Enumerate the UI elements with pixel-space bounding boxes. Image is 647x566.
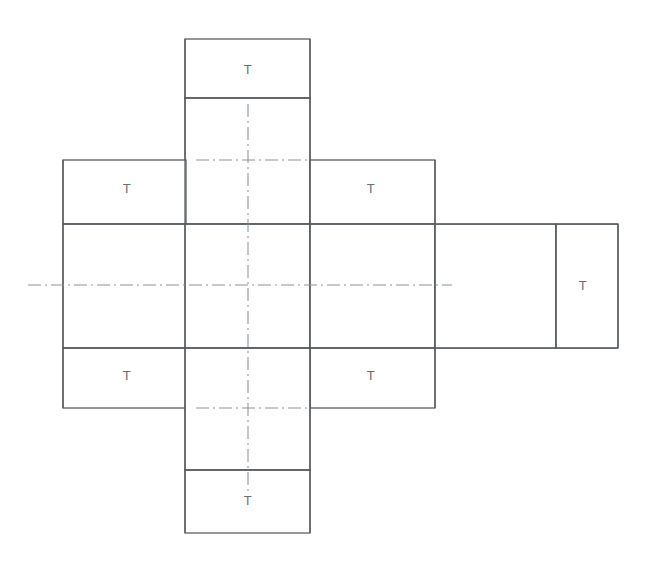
net-diagram-canvas: TTTTTTT <box>0 0 647 566</box>
bottom-glue-tab-label: T <box>244 493 252 508</box>
panels-group <box>63 39 618 533</box>
right-upper-tab-label: T <box>367 181 375 196</box>
left-lower-tab-label: T <box>123 368 131 383</box>
box-net-drawing: TTTTTTT <box>0 0 647 566</box>
right-lower-tab-label: T <box>367 368 375 383</box>
right-face-panel <box>310 224 435 348</box>
far-right-face-panel <box>435 224 556 348</box>
left-upper-tab-label: T <box>123 181 131 196</box>
top-glue-tab-label: T <box>244 62 252 77</box>
far-right-glue-tab-label: T <box>579 278 587 293</box>
left-face-panel <box>63 224 186 348</box>
